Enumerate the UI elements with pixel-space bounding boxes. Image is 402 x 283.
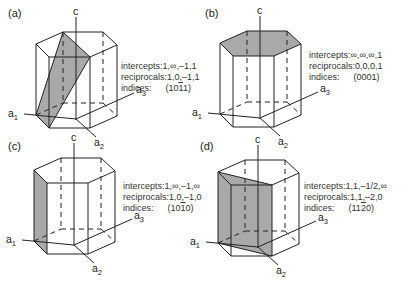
hidden-edge (285, 231, 299, 244)
panel-b-info: intercepts: ∞,∞,∞,1reciprocals: 0,0,0,1i… (309, 50, 383, 83)
indices-value: (1120) (349, 203, 374, 214)
a3-axis-label-subscript: 3 (140, 215, 144, 224)
hidden-edge (287, 102, 301, 115)
panel-label-a: (a) (8, 7, 21, 19)
a2-axis-label: a2 (276, 264, 286, 279)
c-axis-label: c (257, 4, 262, 16)
intercepts-row: intercepts: ∞,∞,∞,1 (309, 50, 383, 61)
top-edge (272, 173, 299, 185)
reciprocals-value: 1,0,–1,0 (169, 192, 202, 202)
reciprocals-value: 1,0,–1,1 (167, 72, 200, 82)
panel-label-b: (b) (205, 7, 218, 19)
top-edge (36, 32, 63, 44)
reciprocals-row: reciprocals: 1,1,–2,0 (304, 192, 387, 203)
intercepts-row: intercepts: 1,∞,–1,∞ (123, 181, 202, 192)
reciprocals-label: reciprocals: (304, 192, 350, 203)
indices-row: indices:(0001) (309, 72, 383, 83)
a3-axis (74, 219, 132, 245)
c-axis-label: c (73, 5, 78, 17)
a1-axis-label-subscript: 1 (14, 113, 18, 122)
bottom-edge (272, 244, 299, 256)
top-edge (218, 160, 245, 172)
bottom-edge (220, 114, 233, 127)
a1-axis-label-subscript: 1 (196, 241, 200, 250)
top-edge (103, 32, 117, 45)
reciprocals-label: reciprocals: (121, 72, 167, 83)
intercepts-row: intercepts: 1,1,–1/2,∞ (304, 181, 387, 192)
a2-axis-label: a2 (92, 262, 102, 277)
intercepts-value: ∞,∞,∞,1 (351, 50, 383, 60)
indices-value: (1010) (168, 203, 194, 214)
top-edge (34, 158, 61, 170)
a2-axis-label-subscript: 2 (282, 270, 286, 279)
a2-axis-label-subscript: 2 (284, 141, 288, 150)
intercepts-value: 1,1,–1/2,∞ (346, 181, 387, 191)
a2-axis-label: a2 (94, 136, 104, 151)
a3-axis (260, 92, 318, 118)
a3-axis-label: a3 (320, 82, 330, 97)
hexagonal-miller-bravais-figure: ca1a2a3(a)ca1a2a3(b)ca1a2a3(c)ca1a2a3(d) (0, 0, 402, 283)
top-edge (285, 160, 299, 173)
indices-label: indices: (304, 203, 335, 214)
index-digit: 0 (186, 203, 191, 213)
indices-label: indices: (123, 203, 154, 214)
bottom-edge (88, 242, 115, 254)
a2-axis-label-subscript: 2 (100, 142, 104, 151)
a1-axis (208, 113, 260, 118)
intercepts-value: 1,∞,–1,1 (163, 61, 197, 71)
reciprocals-row: reciprocals: 1,0,–1,0 (123, 192, 202, 203)
panel-a-info: intercepts: 1,∞,–1,1reciprocals: 1,0,–1,… (121, 61, 200, 94)
a2-axis-label: a2 (278, 135, 288, 150)
a1-axis (22, 240, 74, 245)
a1-axis-label: a1 (8, 107, 18, 122)
index-digit: 1 (372, 72, 377, 82)
a3-axis-label-subscript: 3 (324, 217, 328, 226)
panel-c-info: intercepts: 1,∞,–1,∞reciprocals: 1,0,–1,… (123, 181, 202, 214)
intercepts-label: intercepts: (123, 181, 165, 192)
reciprocals-value: 1,1,–2,0 (350, 192, 383, 202)
c-axis-label: c (255, 133, 260, 145)
hidden-edge (101, 229, 115, 242)
top-edge (101, 158, 115, 171)
a2-axis-label-subscript: 2 (98, 268, 102, 277)
intercepts-row: intercepts: 1,∞,–1,1 (121, 61, 200, 72)
reciprocals-row: reciprocals: 0,0,0,1 (309, 61, 383, 72)
a1-axis-label-subscript: 1 (12, 239, 16, 248)
index-digit: 1 (183, 83, 188, 93)
a1-axis-label: a1 (192, 106, 202, 121)
a1-axis-label-subscript: 1 (198, 112, 202, 121)
reciprocals-label: reciprocals: (309, 61, 355, 72)
reciprocals-label: reciprocals: (123, 192, 169, 203)
a3-axis-label-subscript: 3 (326, 88, 330, 97)
c-axis-label: c (71, 131, 76, 143)
hidden-edge (103, 103, 117, 116)
intercepts-value: 1,∞,–1,∞ (165, 181, 200, 191)
a1-axis-label: a1 (6, 233, 16, 248)
top-edge (36, 44, 49, 57)
intercepts-label: intercepts: (121, 61, 163, 72)
top-edge (90, 45, 117, 57)
indices-value: (0001) (354, 72, 380, 83)
top-edge (88, 171, 115, 183)
bottom-edge (274, 115, 301, 127)
panel-label-c: (c) (8, 140, 21, 152)
indices-row: indices:(1120) (304, 203, 387, 214)
indices-label: indices: (309, 72, 340, 83)
index-digit: 0 (366, 203, 371, 213)
panel-d-info: intercepts: 1,1,–1/2,∞reciprocals: 1,1,–… (304, 181, 387, 214)
reciprocals-row: reciprocals: 1,0,–1,1 (121, 72, 200, 83)
a1-axis-label: a1 (190, 235, 200, 250)
bottom-edge (90, 116, 117, 128)
indices-row: indices:(1010) (123, 203, 202, 214)
indices-label: indices: (121, 83, 152, 94)
reciprocals-value: 0,0,0,1 (355, 61, 383, 71)
a3-axis (76, 93, 134, 119)
intercepts-label: intercepts: (304, 181, 346, 192)
indices-row: indices:(1011) (121, 83, 200, 94)
panel-label-d: (d) (200, 140, 213, 152)
indices-value: (1011) (166, 83, 191, 94)
intercepts-label: intercepts: (309, 50, 351, 61)
